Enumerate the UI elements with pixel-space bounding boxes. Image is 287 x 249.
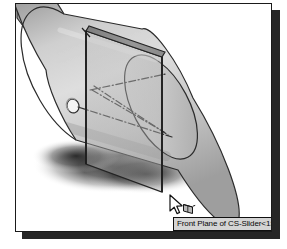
cad-viewport[interactable]: Front Plane of CS-Slider<1>	[16, 4, 271, 231]
front-plane-highlight[interactable]	[82, 26, 165, 192]
figure-plate: Front Plane of CS-Slider<1>	[0, 0, 287, 249]
viewport-frame: Front Plane of CS-Slider<1>	[15, 3, 272, 232]
selection-tooltip: Front Plane of CS-Slider<1>	[173, 217, 271, 231]
3d-scene	[16, 4, 271, 231]
